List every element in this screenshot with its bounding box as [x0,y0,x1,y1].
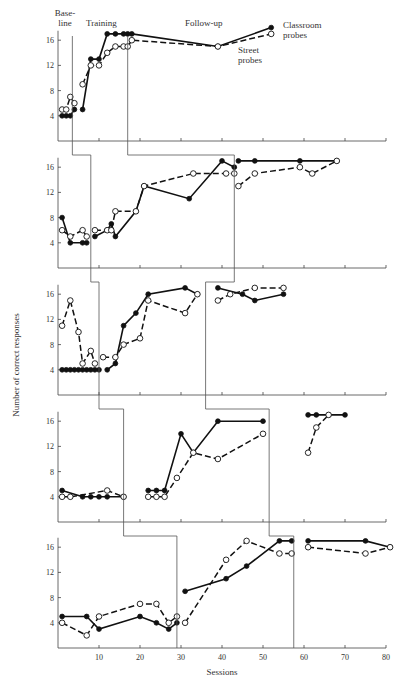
classroom-probe-point [183,286,188,291]
street-probe-point [145,494,151,500]
classroom-probe-point [60,215,65,220]
street-probe-point [244,538,250,544]
classroom-probe-point [343,413,348,418]
street-probe-point [162,494,168,500]
classroom-probe-point [252,298,257,303]
baseline-label-2: line [58,18,72,28]
panel-3: 481216 [46,285,386,395]
street-probe-point [215,44,221,50]
x-tick-label: 50 [259,653,267,662]
classroom-probe-point [60,488,65,493]
classroom-probe-point [134,311,139,316]
x-tick-label: 60 [300,653,308,662]
street-probe-point [166,620,172,626]
y-tick-label: 16 [46,36,54,45]
street-probes-line [62,604,177,636]
y-tick-label: 16 [46,290,54,299]
street-probe-point [387,544,393,550]
classroom-probe-point [121,323,126,328]
y-tick-label: 16 [46,417,54,426]
street-probe-point [281,285,287,291]
street-probe-point [104,488,110,494]
y-tick-label: 16 [46,163,54,172]
classroom-probe-point [183,589,188,594]
x-tick-label: 30 [177,653,185,662]
y-tick-label: 8 [50,594,54,603]
classroom-probe-point [216,419,221,424]
classroom-probe-point [314,413,319,418]
classroom-probe-point [97,627,102,632]
street-probe-point [92,227,98,233]
y-tick-label: 12 [46,188,54,197]
x-tick-label: 20 [136,653,144,662]
y-tick-label: 4 [50,366,54,375]
classroom-probe-point [97,57,102,62]
street-probe-point [88,348,94,354]
classroom-probe-point [240,292,245,297]
y-tick-label: 8 [50,87,54,96]
street-probes-line [308,415,329,453]
street-probe-point [195,291,201,297]
classroom-probe-point [68,240,73,245]
street-probe-point [277,551,283,557]
street-probe-point [137,336,143,342]
street-probe-point [305,544,311,550]
classroom-probe-point [129,32,134,37]
street-probe-point [174,475,180,481]
classroom-probe-point [88,57,93,62]
classroom-probe-point [80,494,85,499]
street-probes-line [308,547,390,553]
classroom-probe-point [113,32,118,37]
street-probe-point [260,431,266,437]
y-tick-label: 12 [46,442,54,451]
training-label: Training [86,18,117,28]
x-axis-title: Sessions [206,667,238,677]
panel-1: 481216 [46,25,386,141]
classroom-probe-point [216,286,221,291]
classroom-probe-point [84,614,89,619]
y-tick-label: 8 [50,341,54,350]
classroom-probe-point [154,620,159,625]
classroom-probe-point [306,539,311,544]
y-tick-label: 4 [50,493,54,502]
street-probe-point [68,494,74,500]
classroom-probes-line [308,541,390,547]
street-probe-point [215,456,221,462]
classroom-probe-point [252,159,257,164]
legend-street-2: probes [238,55,262,65]
street-probe-point [84,234,90,240]
legend-classroom-2: probes [283,30,307,40]
training-followup-phase-line [128,36,294,648]
street-probe-point [92,361,98,367]
street-probe-point [84,633,90,639]
street-probe-point [215,298,221,304]
street-probe-point [334,158,340,164]
legend-classroom-1: Classroom [283,20,322,30]
chart-panels: 4812164812164812164812164812161020304050… [46,25,393,662]
y-tick-label: 4 [50,239,54,248]
panel-2: 481216 [46,158,386,268]
street-probe-point [113,209,119,215]
street-probe-point [268,31,274,37]
classroom-probe-point [236,159,241,164]
y-tick-label: 8 [50,468,54,477]
classroom-probe-point [261,419,266,424]
street-probe-point [76,329,82,335]
classroom-probe-point [138,614,143,619]
classroom-probes-line [107,288,197,370]
street-probe-point [223,557,229,563]
legend-street-1: Street [238,45,259,55]
street-probe-point [145,298,151,304]
x-tick-label: 10 [95,653,103,662]
street-probe-point [96,63,102,69]
classroom-probe-point [281,292,286,297]
y-tick-label: 4 [50,619,54,628]
street-probe-point [121,342,127,348]
street-probe-point [137,601,143,607]
street-probe-point [113,354,119,360]
street-probe-point [59,620,65,626]
classroom-probe-point [80,107,85,112]
street-probes-line [103,294,197,357]
street-probe-point [68,298,74,304]
street-probe-point [129,37,135,43]
